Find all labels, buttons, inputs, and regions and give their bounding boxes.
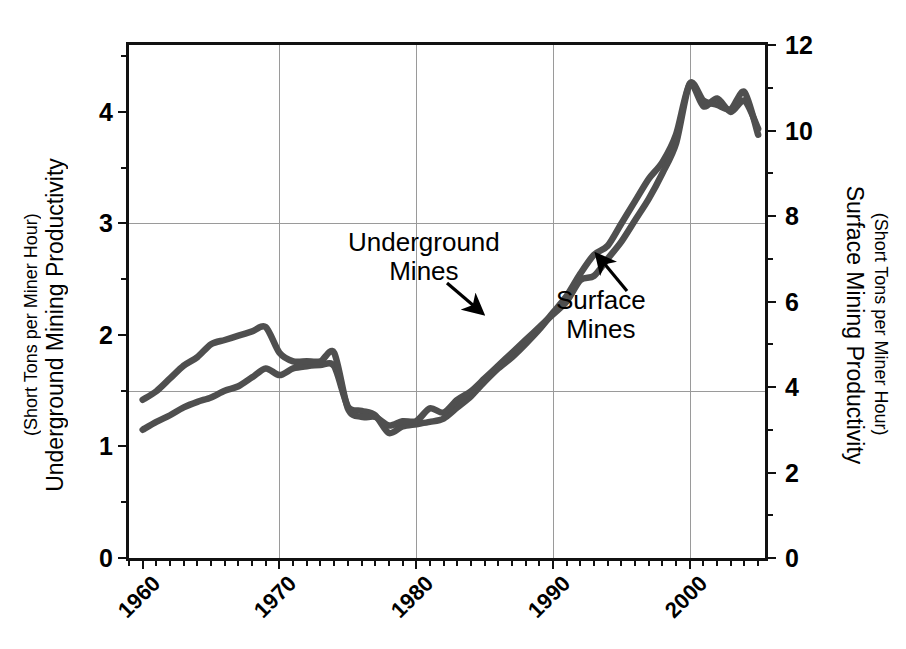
right-minor-tick-3 [765, 429, 773, 431]
plot-area: 0123402468101219601970198019902000 [126, 42, 768, 561]
x-minor-tick-1964 [196, 558, 198, 566]
left-axis-title: Underground Mining Productivity (Short T… [14, 158, 74, 492]
x-minor-tick-1982 [443, 558, 445, 566]
x-minor-tick-1994 [607, 558, 609, 566]
left-axis-title-main: Underground Mining Productivity [42, 158, 69, 492]
right-tick-8 [765, 215, 776, 217]
chart-root: Underground Mining Productivity (Short T… [0, 0, 906, 649]
x-minor-tick-1995 [620, 558, 622, 566]
x-minor-tick-1985 [484, 558, 486, 566]
x-minor-tick-1981 [429, 558, 431, 566]
annotation-surface-line2: Mines [556, 315, 646, 344]
left-tick-label-2: 2 [83, 322, 113, 347]
right-axis-title-sub: (Short Tons per Miner Hour) [870, 213, 891, 436]
x-minor-tick-1972 [306, 558, 308, 566]
x-minor-tick-1971 [292, 558, 294, 566]
left-tick-label-1: 1 [83, 434, 113, 459]
annotation-underground-mines: Underground Mines [348, 228, 500, 286]
right-tick-label-4: 4 [785, 375, 799, 400]
x-tick-1970 [278, 558, 280, 569]
x-minor-tick-1973 [319, 558, 321, 566]
x-minor-tick-1989 [538, 558, 540, 566]
right-tick-label-2: 2 [785, 460, 799, 485]
left-tick-1 [118, 445, 129, 447]
left-minor-tick-2.5 [121, 278, 129, 280]
x-tick-1960 [142, 558, 144, 569]
x-minor-tick-1976 [361, 558, 363, 566]
x-minor-tick-1983 [456, 558, 458, 566]
x-minor-tick-1966 [224, 558, 226, 566]
x-minor-tick-1986 [497, 558, 499, 566]
right-tick-label-10: 10 [785, 118, 813, 143]
vertical-gridline-1980 [416, 45, 417, 558]
x-minor-tick-1969 [265, 558, 267, 566]
left-tick-label-4: 4 [83, 99, 113, 124]
x-minor-tick-1993 [593, 558, 595, 566]
annotation-underground-line2: Mines [348, 257, 500, 286]
x-minor-tick-1997 [648, 558, 650, 566]
annotation-underground-line1: Underground [348, 228, 500, 257]
x-tick-label-1960: 1960 [114, 572, 164, 622]
x-minor-tick-1991 [566, 558, 568, 566]
right-minor-tick-9 [765, 172, 773, 174]
left-axis-title-sub: (Short Tons per Miner Hour) [21, 213, 42, 436]
left-tick-label-0: 0 [83, 546, 113, 571]
horizontal-gridline-1.5 [129, 391, 765, 392]
x-minor-tick-1965 [210, 558, 212, 566]
x-minor-tick-1975 [347, 558, 349, 566]
right-tick-6 [765, 301, 776, 303]
right-tick-label-0: 0 [785, 546, 799, 571]
plot-inner: 0123402468101219601970198019902000 [129, 45, 765, 558]
x-tick-label-2000: 2000 [661, 572, 711, 622]
left-tick-3 [118, 222, 129, 224]
annotation-surface-mines: Surface Mines [556, 286, 646, 344]
x-minor-tick-2001 [702, 558, 704, 566]
x-minor-tick-1978 [388, 558, 390, 566]
x-minor-tick-1961 [155, 558, 157, 566]
x-minor-tick-1962 [169, 558, 171, 566]
vertical-gridline-1990 [553, 45, 554, 558]
right-minor-tick-7 [765, 258, 773, 260]
x-minor-tick-1963 [183, 558, 185, 566]
left-tick-4 [118, 111, 129, 113]
vertical-gridline-1970 [279, 45, 280, 558]
x-minor-tick-1987 [511, 558, 513, 566]
x-tick-1980 [415, 558, 417, 569]
right-tick-0 [765, 557, 776, 559]
right-tick-label-12: 12 [785, 33, 813, 58]
x-tick-label-1970: 1970 [251, 572, 301, 622]
x-minor-tick-1967 [237, 558, 239, 566]
right-tick-12 [765, 44, 776, 46]
x-tick-1990 [552, 558, 554, 569]
left-tick-2 [118, 334, 129, 336]
vertical-gridline-2000 [690, 45, 691, 558]
x-tick-label-1980: 1980 [388, 572, 438, 622]
x-minor-tick-1992 [579, 558, 581, 566]
right-axis-title: Surface Mining Productivity (Short Tons … [834, 185, 898, 464]
horizontal-gridline-3 [129, 223, 765, 224]
x-minor-tick-1999 [675, 558, 677, 566]
x-minor-tick-2005 [757, 558, 759, 566]
x-minor-tick-1998 [661, 558, 663, 566]
x-tick-2000 [689, 558, 691, 569]
x-minor-tick-1959 [128, 558, 130, 566]
right-minor-tick-1 [765, 514, 773, 516]
x-minor-tick-1974 [333, 558, 335, 566]
x-minor-tick-1984 [470, 558, 472, 566]
left-tick-label-3: 3 [83, 211, 113, 236]
left-minor-tick-0.5 [121, 501, 129, 503]
x-minor-tick-1979 [402, 558, 404, 566]
left-minor-tick-4.5 [121, 55, 129, 57]
x-minor-tick-1977 [374, 558, 376, 566]
right-tick-label-8: 8 [785, 204, 799, 229]
right-tick-4 [765, 386, 776, 388]
x-minor-tick-1996 [634, 558, 636, 566]
left-minor-tick-3.5 [121, 167, 129, 169]
x-tick-label-1990: 1990 [524, 572, 574, 622]
right-tick-2 [765, 472, 776, 474]
left-minor-tick-1.5 [121, 390, 129, 392]
x-minor-tick-2004 [743, 558, 745, 566]
right-minor-tick-5 [765, 343, 773, 345]
right-tick-label-6: 6 [785, 289, 799, 314]
x-minor-tick-2003 [730, 558, 732, 566]
